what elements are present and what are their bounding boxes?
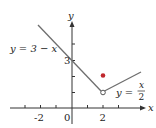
y-axis-label: y [67,10,74,21]
open-point [101,90,106,95]
piecewise-function-graph: x y -2 0 2 3 y = 3 − x y = x 2 [0,0,156,128]
x-tick-label-0: 0 [64,112,70,123]
right-line-label-denominator: 2 [139,92,145,102]
y-tick-label-3: 3 [64,55,70,66]
right-line-label-lhs: y = [115,87,133,98]
x-axis-arrow-icon [140,106,146,111]
right-line-label-numerator: x [139,80,144,90]
x-tick-label-2: 2 [100,112,106,123]
x-axis-label: x [148,102,154,113]
y-axis-arrow-icon [70,21,75,27]
left-line-label: y = 3 − x [9,43,57,54]
filled-point [101,73,106,78]
x-tick-label-neg2: -2 [34,112,44,123]
